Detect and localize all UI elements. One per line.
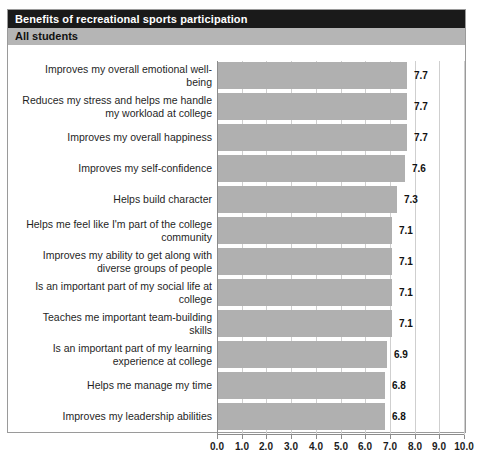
- x-tick: [415, 435, 416, 439]
- bar-category-label: Improves my self-confidence: [20, 154, 212, 183]
- bar-row: Teaches me important team-building skill…: [8, 309, 465, 338]
- bar-row: Helps me manage my time6.8: [8, 371, 465, 400]
- bar-category-label: Is an important part of my social life a…: [20, 278, 212, 307]
- bar: [218, 279, 392, 306]
- bar-row: Improves my overall happiness7.7: [8, 123, 465, 152]
- plot-area: 0.01.02.03.04.05.06.07.08.09.010.0 Impro…: [8, 45, 465, 434]
- bar-row: Improves my overall emotional well-being…: [8, 61, 465, 90]
- x-tick: [242, 435, 243, 439]
- bar-value-label: 6.8: [385, 402, 406, 431]
- x-tick: [365, 435, 366, 439]
- bar-row: Helps me feel like I'm part of the colle…: [8, 216, 465, 245]
- bar-value-label: 6.8: [385, 371, 406, 400]
- bar-value-label: 6.9: [387, 340, 408, 369]
- bar: [218, 93, 407, 120]
- bar-category-label: Teaches me important team-building skill…: [20, 309, 212, 338]
- x-tick: [390, 435, 391, 439]
- panel-subtitle: All students: [8, 28, 465, 45]
- x-tick: [464, 435, 465, 439]
- bar-row: Improves my ability to get along with di…: [8, 247, 465, 276]
- x-tick-label: 10.0: [449, 441, 479, 452]
- bar: [218, 372, 385, 399]
- bar-category-label: Helps build character: [20, 185, 212, 214]
- bar: [218, 217, 392, 244]
- bar-value-label: 7.1: [392, 309, 413, 338]
- bar-row: Reduces my stress and helps me handle my…: [8, 92, 465, 121]
- bar-category-label: Reduces my stress and helps me handle my…: [20, 92, 212, 121]
- bar-row: Helps build character7.3: [8, 185, 465, 214]
- bar: [218, 186, 397, 213]
- bar: [218, 310, 392, 337]
- x-tick: [266, 435, 267, 439]
- bar-row: Improves my leadership abilities6.8: [8, 402, 465, 431]
- bar-category-label: Helps me manage my time: [20, 371, 212, 400]
- bar-value-label: 7.1: [392, 278, 413, 307]
- bar-category-label: Helps me feel like I'm part of the colle…: [20, 216, 212, 245]
- bar: [218, 248, 392, 275]
- x-tick: [439, 435, 440, 439]
- bar-value-label: 7.6: [405, 154, 426, 183]
- bar-category-label: Improves my ability to get along with di…: [20, 247, 212, 276]
- bar: [218, 155, 405, 182]
- x-tick: [316, 435, 317, 439]
- x-tick: [341, 435, 342, 439]
- bar: [218, 62, 407, 89]
- bar-value-label: 7.1: [392, 216, 413, 245]
- bar: [218, 124, 407, 151]
- bar-value-label: 7.7: [407, 61, 428, 90]
- bar-value-label: 7.7: [407, 92, 428, 121]
- bar-value-label: 7.3: [397, 185, 418, 214]
- bar-category-label: Is an important part of my learning expe…: [20, 340, 212, 369]
- bar-value-label: 7.1: [392, 247, 413, 276]
- x-tick: [217, 435, 218, 439]
- bar-category-label: Improves my overall happiness: [20, 123, 212, 152]
- bar-row: Improves my self-confidence7.6: [8, 154, 465, 183]
- bar-value-label: 7.7: [407, 123, 428, 152]
- bar-rows: Improves my overall emotional well-being…: [8, 61, 465, 433]
- bar-row: Is an important part of my learning expe…: [8, 340, 465, 369]
- bar-category-label: Improves my overall emotional well-being: [20, 61, 212, 90]
- bar-row: Is an important part of my social life a…: [8, 278, 465, 307]
- bar: [218, 403, 385, 430]
- bar-category-label: Improves my leadership abilities: [20, 402, 212, 431]
- chart-panel: Benefits of recreational sports particip…: [7, 9, 466, 433]
- bar: [218, 341, 387, 368]
- x-tick: [291, 435, 292, 439]
- panel-title: Benefits of recreational sports particip…: [8, 10, 465, 28]
